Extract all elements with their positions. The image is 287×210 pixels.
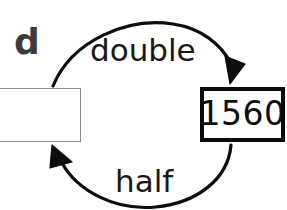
corner-label-d: d	[14, 22, 40, 62]
double-label: double	[90, 32, 196, 68]
result-box[interactable]: 1560	[200, 87, 285, 142]
result-box-value: 1560	[200, 97, 286, 131]
input-box[interactable]	[0, 88, 81, 142]
half-arrow-head	[50, 145, 72, 168]
half-label: half	[115, 163, 173, 199]
diagram-canvas: d double 1560 half	[0, 0, 287, 210]
double-arrow-head	[225, 56, 245, 84]
